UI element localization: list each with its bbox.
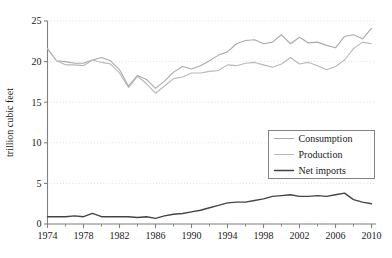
line-chart: 0510152025 19741978198219861990199419982…	[0, 0, 392, 258]
x-tick-label-2006: 2006	[326, 230, 346, 241]
y-axis-title-text: trillion cubic feet	[4, 88, 15, 157]
x-tick-label-1998: 1998	[254, 230, 274, 241]
x-tick-label-1982: 1982	[110, 230, 130, 241]
x-tick-label-1990: 1990	[182, 230, 202, 241]
y-tick-label-25: 25	[32, 15, 42, 26]
x-tick-label-2002: 2002	[290, 230, 310, 241]
x-tick-label-2010: 2010	[362, 230, 382, 241]
legend-label-production[interactable]: Production	[299, 149, 343, 160]
x-tick-label-1974: 1974	[38, 230, 58, 241]
x-tick-label-1978: 1978	[74, 230, 94, 241]
legend-label-net-imports[interactable]: Net imports	[299, 165, 347, 176]
y-tick-label-0: 0	[37, 218, 42, 229]
x-tick-label-1986: 1986	[146, 230, 166, 241]
legend-label-consumption[interactable]: Consumption	[299, 133, 353, 144]
y-tick-label-20: 20	[32, 56, 42, 67]
figure-container: 0510152025 19741978198219861990199419982…	[0, 0, 392, 258]
y-axis-title: trillion cubic feet	[4, 88, 15, 157]
y-tick-label-5: 5	[37, 178, 42, 189]
x-tick-label-1994: 1994	[218, 230, 238, 241]
plot-background	[0, 0, 392, 258]
y-tick-label-10: 10	[32, 137, 42, 148]
legend[interactable]: ConsumptionProductionNet imports	[269, 131, 375, 179]
y-tick-label-15: 15	[32, 97, 42, 108]
